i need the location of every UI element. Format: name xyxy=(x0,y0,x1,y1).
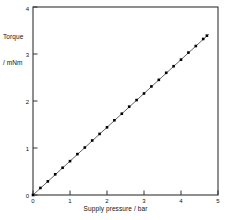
chart-plot-area: 0 1 2 3 4 5 0 1 2 3 4 xyxy=(0,0,231,220)
y-tick-label: 0 xyxy=(26,193,30,199)
y-tick-label: 4 xyxy=(26,6,30,12)
chart-figure: 0 1 2 3 4 5 0 1 2 3 4 Torque / mNm Suppl… xyxy=(0,0,231,220)
x-tick-label: 4 xyxy=(179,198,183,204)
data-point xyxy=(54,173,57,176)
data-point xyxy=(165,72,168,75)
data-point xyxy=(32,194,35,197)
data-point xyxy=(76,153,79,156)
y-axis-title: Torque / mNm xyxy=(3,15,23,85)
data-point xyxy=(180,58,183,61)
data-point xyxy=(91,139,94,142)
y-axis-title-line1: Torque xyxy=(3,33,23,42)
y-tick-label: 2 xyxy=(26,99,30,105)
x-tick-labels: 0 1 2 3 4 5 xyxy=(31,198,220,204)
x-tick-label: 1 xyxy=(68,198,72,204)
data-point xyxy=(206,34,209,37)
x-tick-label: 2 xyxy=(105,198,109,204)
data-point xyxy=(158,79,161,82)
data-point xyxy=(47,180,50,183)
y-axis-title-line2: / mNm xyxy=(3,59,23,68)
y-tick-labels: 0 1 2 3 4 xyxy=(26,6,30,199)
data-point xyxy=(106,126,109,129)
data-point xyxy=(195,45,198,48)
data-point xyxy=(69,160,72,163)
y-tick-label: 3 xyxy=(26,52,30,58)
data-point xyxy=(172,65,175,68)
plot-frame xyxy=(33,7,218,195)
data-point xyxy=(61,166,64,169)
x-axis-title: Supply pressure / bar xyxy=(0,205,231,214)
x-tick-label: 3 xyxy=(142,198,146,204)
y-tick-label: 1 xyxy=(26,146,30,152)
data-point xyxy=(202,38,205,41)
data-point xyxy=(135,99,138,102)
data-point xyxy=(84,146,87,149)
data-point xyxy=(187,51,190,54)
data-point xyxy=(113,119,116,122)
data-point xyxy=(39,187,42,190)
data-point xyxy=(128,105,131,108)
data-point xyxy=(121,112,124,115)
data-point xyxy=(143,92,146,95)
data-point xyxy=(150,85,153,88)
data-point xyxy=(98,133,101,136)
x-tick-label: 0 xyxy=(31,198,35,204)
x-tick-label: 5 xyxy=(216,198,220,204)
